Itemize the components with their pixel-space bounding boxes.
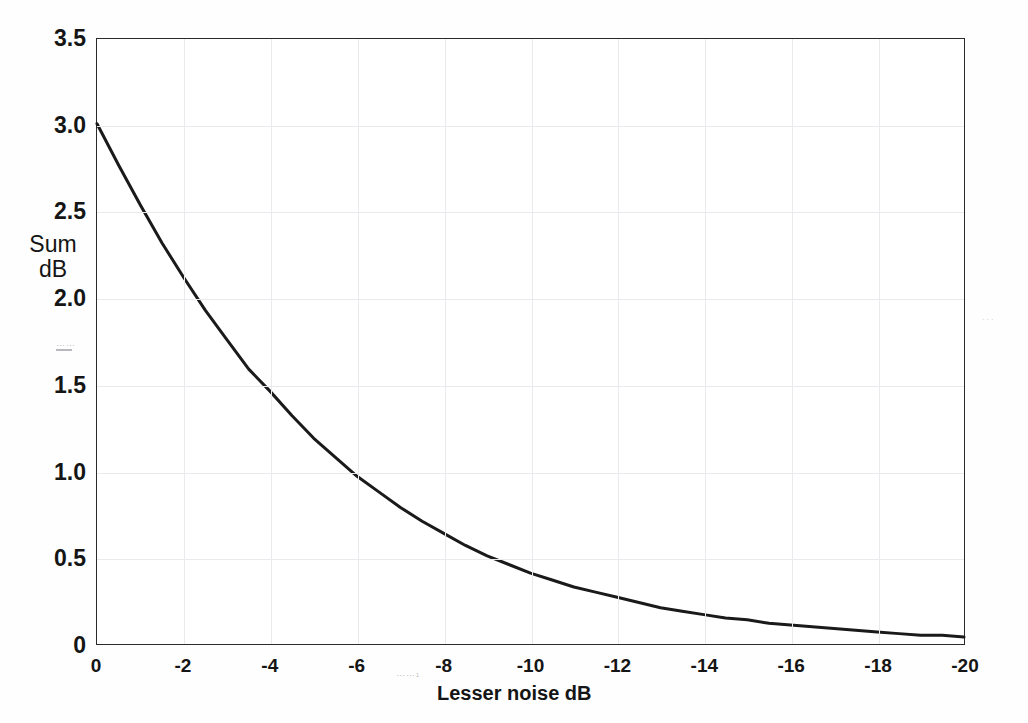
x-axis-tick-label: 0 bbox=[91, 655, 102, 677]
x-axis-tick-label: -12 bbox=[604, 655, 631, 677]
x-axis-tick-label: -6 bbox=[348, 655, 365, 677]
x-axis-tick-label: -10 bbox=[517, 655, 544, 677]
x-axis-tick-label: -2 bbox=[174, 655, 191, 677]
x-axis-tick-label: -16 bbox=[777, 655, 804, 677]
x-axis-title: Lesser noise dB bbox=[437, 682, 592, 705]
chart-figure: 00.51.01.52.02.53.03.5 Sum dB 0-2-4-6-8-… bbox=[0, 0, 1028, 723]
x-axis-tick-labels: 0-2-4-6-8-10-12-14-16-18-20 bbox=[0, 0, 1028, 723]
x-axis-tick-label: -8 bbox=[435, 655, 452, 677]
x-axis-tick-label: -4 bbox=[261, 655, 278, 677]
scan-artifact-y-icon: …… bbox=[56, 340, 76, 351]
scan-artifact-x-icon: ……₁ bbox=[396, 668, 420, 678]
x-axis-tick-label: -20 bbox=[951, 655, 978, 677]
scan-artifact-right-icon: ... bbox=[982, 312, 996, 322]
x-axis-tick-label: -18 bbox=[864, 655, 891, 677]
x-axis-tick-label: -14 bbox=[691, 655, 718, 677]
